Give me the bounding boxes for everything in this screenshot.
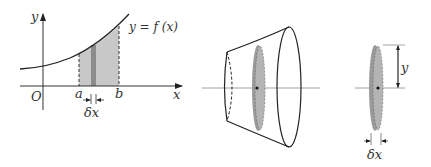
disc-center-dot xyxy=(376,86,379,89)
x-axis-label: x xyxy=(173,87,181,102)
b-label: b xyxy=(115,86,123,101)
radius-label: y xyxy=(400,60,409,75)
panel-disc: y δx xyxy=(355,45,409,162)
panel-graph: y x O y = f (x) a b δx xyxy=(20,9,182,120)
panel-solid xyxy=(202,27,320,147)
delta-x-strip xyxy=(91,45,96,86)
curve-label: y = f (x) xyxy=(128,20,178,34)
origin-label: O xyxy=(31,89,42,104)
center-dot xyxy=(255,86,258,89)
right-end-ellipse xyxy=(277,27,301,147)
y-axis-label: y xyxy=(30,9,39,24)
area-region xyxy=(79,26,119,86)
disc-delta-x-label: δx xyxy=(367,147,383,162)
delta-x-label: δx xyxy=(84,105,100,120)
disc-method-diagram: y x O y = f (x) a b δx y xyxy=(0,0,431,167)
a-label: a xyxy=(75,86,83,101)
